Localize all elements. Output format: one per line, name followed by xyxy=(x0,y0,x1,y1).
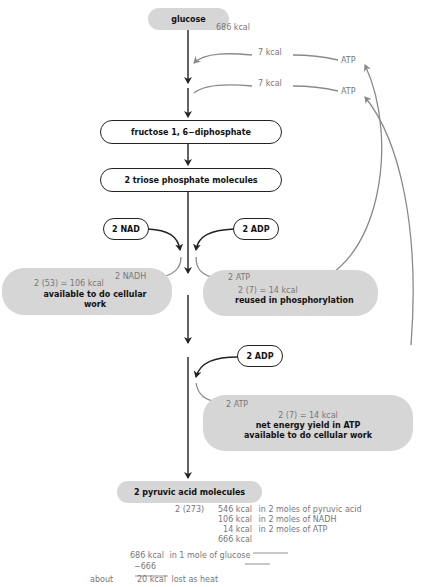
atp-net-description-line2: available to do cellular work xyxy=(203,431,413,441)
atp-out-label-2: 2 ATP xyxy=(226,400,248,409)
summary-multiplier: 2 (273) xyxy=(175,505,204,514)
node-triose-phosphate: 2 triose phosphate molecules xyxy=(100,168,282,192)
atp-net-description-line1: net energy yield in ATP xyxy=(203,421,413,431)
node-adp-2-label: 2 ADP xyxy=(246,352,273,361)
glucose-balance-value: 686 kcal xyxy=(130,551,164,560)
node-nad: 2 NAD xyxy=(103,218,149,240)
atp-input-label-2: ATP xyxy=(341,87,356,96)
atp-net-description: 2 (7) = 14 kcal net energy yield in ATP … xyxy=(203,411,413,441)
nadh-description-line2: work xyxy=(20,300,170,310)
heat-loss-value: 20 kcal xyxy=(137,575,166,584)
atp-out-label-1: 2 ATP xyxy=(228,273,250,282)
node-adp-2: 2 ADP xyxy=(237,345,283,367)
heat-about: about xyxy=(90,575,113,584)
node-fructose-diphosphate: fructose 1, 6−diphosphate xyxy=(100,120,282,144)
heat-loss-desc: lost as heat xyxy=(171,575,218,584)
glucose-balance-desc: in 1 mole of glucose xyxy=(170,551,251,560)
node-nad-label: 2 NAD xyxy=(112,225,140,234)
glucose-balance-subtract: −666 xyxy=(130,561,250,572)
node-fructose-label: fructose 1, 6−diphosphate xyxy=(131,128,251,137)
atp-reuse-description: reused in phosphorylation xyxy=(235,296,354,305)
node-triose-label: 2 triose phosphate molecules xyxy=(124,176,257,185)
atp-net-calc: 2 (7) = 14 kcal xyxy=(203,411,413,421)
node-adp-1-label: 2 ADP xyxy=(242,225,269,234)
heat-loss: 20 kcal lost as heat xyxy=(137,575,218,584)
nadh-label: 2 NADH xyxy=(115,272,146,281)
node-adp-1: 2 ADP xyxy=(233,218,279,240)
nadh-calc: 2 (53) = 106 kcal xyxy=(34,279,104,288)
nadh-description: available to do cellular work xyxy=(20,290,170,310)
summary-total: 666 kcal xyxy=(216,535,361,545)
glucose-energy-label: 686 kcal xyxy=(216,23,250,32)
summary-row: 106 kcal in 2 moles of NADH xyxy=(216,515,361,525)
nadh-description-line1: available to do cellular xyxy=(20,290,170,300)
glucose-balance: 686 kcal in 1 mole of glucose −666 xyxy=(130,550,250,572)
atp-reuse-calc: 2 (7) = 14 kcal xyxy=(238,286,298,295)
kcal-input-label-1: 7 kcal xyxy=(258,48,282,57)
kcal-input-label-2: 7 kcal xyxy=(258,79,282,88)
summary-row: 546 kcal in 2 moles of pyruvic acid xyxy=(216,505,361,515)
node-glucose-label: glucose xyxy=(171,15,206,24)
node-pyruvic-label: 2 pyruvic acid molecules xyxy=(134,488,245,497)
atp-input-label-1: ATP xyxy=(341,56,356,65)
summary-table: 546 kcal in 2 moles of pyruvic acid 106 … xyxy=(216,505,361,545)
node-pyruvic-acid: 2 pyruvic acid molecules xyxy=(117,481,262,503)
summary-row: 14 kcal in 2 moles of ATP xyxy=(216,525,361,535)
